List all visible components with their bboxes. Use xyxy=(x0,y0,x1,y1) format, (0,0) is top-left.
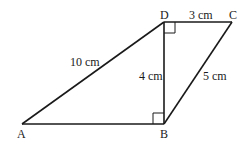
vertex-label-b: B xyxy=(160,127,168,141)
quadrilateral-diagram: A B C D 10 cm 3 cm 4 cm 5 cm xyxy=(0,0,244,147)
vertex-label-d: D xyxy=(160,8,169,22)
right-angle-mark-b xyxy=(153,113,164,124)
edge-label-dc: 3 cm xyxy=(189,8,213,22)
vertex-label-a: A xyxy=(17,127,26,141)
edge-label-bd: 4 cm xyxy=(139,69,163,83)
edge-label-ad: 10 cm xyxy=(70,55,100,69)
edge-label-bc: 5 cm xyxy=(203,69,227,83)
right-angle-mark-d xyxy=(164,22,175,33)
vertex-label-c: C xyxy=(229,8,237,22)
